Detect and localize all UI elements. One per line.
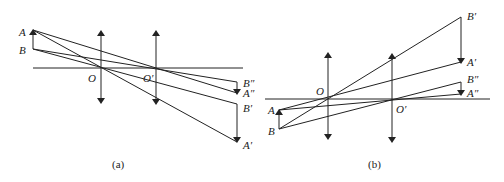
ray-b-through-o-prime <box>279 82 461 129</box>
ray-b-through-o <box>33 49 237 104</box>
ray-b-through-o <box>279 17 461 129</box>
label-a-dprime: A″ <box>466 87 479 99</box>
label-a: A <box>267 104 275 116</box>
caption-b: (b) <box>368 158 381 171</box>
panel-a: A B O O′ B″ A″ B′ A′ (a) <box>18 26 255 171</box>
label-b-prime: B′ <box>243 102 253 114</box>
ray-a-through-o-prime <box>33 30 237 93</box>
label-a-prime: A′ <box>466 56 477 68</box>
ray-b-through-o-prime <box>33 49 237 82</box>
ray-a-through-o-prime <box>279 94 461 110</box>
label-a-dprime: A″ <box>242 87 255 99</box>
label-b-prime: B′ <box>467 10 477 22</box>
label-o: O <box>88 72 96 84</box>
label-o-prime: O′ <box>396 103 407 115</box>
label-o: O <box>316 85 324 97</box>
label-b: B <box>268 125 275 137</box>
two-lens-diagram: A B O O′ B″ A″ B′ A′ (a) A B O O′ B′ A′ <box>0 0 504 182</box>
label-b: B <box>19 44 26 56</box>
label-b-dprime: B″ <box>467 73 479 85</box>
label-o-prime: O′ <box>143 72 154 84</box>
ray-a-through-o <box>279 62 461 110</box>
panel-b: A B O O′ B′ A′ B″ A″ (b) <box>265 10 490 171</box>
caption-a: (a) <box>112 158 125 171</box>
label-a-prime: A′ <box>242 139 253 151</box>
label-a: A <box>18 26 26 38</box>
ray-a-through-o <box>33 30 237 142</box>
